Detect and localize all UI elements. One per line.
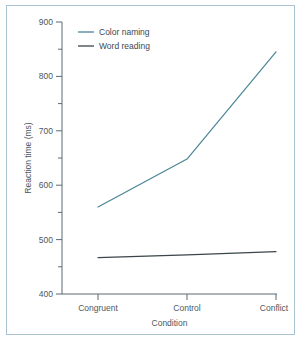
x-axis-tick-labels: Congruent Control Conflict [78,303,289,313]
line-chart: 900 800 700 600 500 400 Congruent Contro… [0,0,305,344]
x-tick-label-control: Control [173,303,201,313]
y-tick-label-500: 500 [39,235,53,245]
x-tick-label-congruent: Congruent [78,303,118,313]
x-axis-title: Condition [152,318,188,328]
x-axis-ticks [98,294,276,300]
y-axis-ticks: 900 800 700 600 500 400 [39,17,62,299]
series-line-color-naming [98,52,276,207]
y-axis-title: Reaction time (ms) [23,122,33,193]
y-tick-label-600: 600 [39,180,53,190]
y-tick-label-400: 400 [39,289,53,299]
legend-label-color-naming: Color naming [99,27,150,37]
series-line-word-reading [98,252,276,258]
chart-figure: 900 800 700 600 500 400 Congruent Contro… [0,0,305,344]
x-tick-label-conflict: Conflict [260,303,289,313]
legend: Color naming Word reading [78,27,150,51]
y-tick-label-700: 700 [39,126,53,136]
legend-label-word-reading: Word reading [99,41,150,51]
y-tick-label-900: 900 [39,17,53,27]
y-tick-label-800: 800 [39,71,53,81]
